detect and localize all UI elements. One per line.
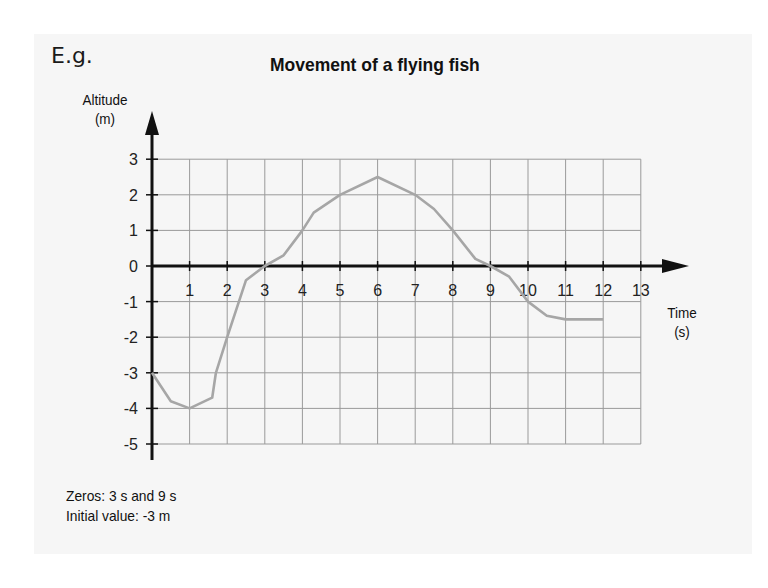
- x-tick-label: 8: [448, 282, 457, 299]
- x-axis-arrow-icon: [662, 259, 689, 273]
- x-tick-label: 5: [336, 282, 345, 299]
- y-tick-label: 3: [129, 151, 138, 168]
- x-tick-label: 2: [223, 282, 232, 299]
- x-tick-label: 1: [185, 282, 194, 299]
- x-tick-label: 7: [411, 282, 420, 299]
- y-tick-label: 1: [129, 222, 138, 239]
- initial-value-note: Initial value: -3 m: [66, 506, 176, 526]
- y-tick-label: -2: [124, 329, 138, 346]
- zeros-note: Zeros: 3 s and 9 s: [66, 486, 176, 506]
- y-tick-label: -5: [124, 436, 138, 453]
- y-tick-label: 2: [129, 187, 138, 204]
- notes: Zeros: 3 s and 9 s Initial value: -3 m: [66, 486, 176, 526]
- x-tick-label: 9: [486, 282, 495, 299]
- x-tick-label: 4: [298, 282, 307, 299]
- x-tick-label: 12: [594, 282, 612, 299]
- x-tick-label: 13: [632, 282, 650, 299]
- x-tick-label: 3: [260, 282, 269, 299]
- y-tick-label: -4: [124, 400, 138, 417]
- y-tick-label: 0: [129, 258, 138, 275]
- y-tick-label: -3: [124, 365, 138, 382]
- grid-lines: [152, 159, 641, 444]
- x-tick-label: 6: [373, 282, 382, 299]
- y-tick-label: -1: [124, 294, 138, 311]
- y-axis-arrow-icon: [145, 111, 159, 135]
- x-tick-label: 11: [557, 282, 574, 299]
- x-tick-label: 10: [519, 282, 537, 299]
